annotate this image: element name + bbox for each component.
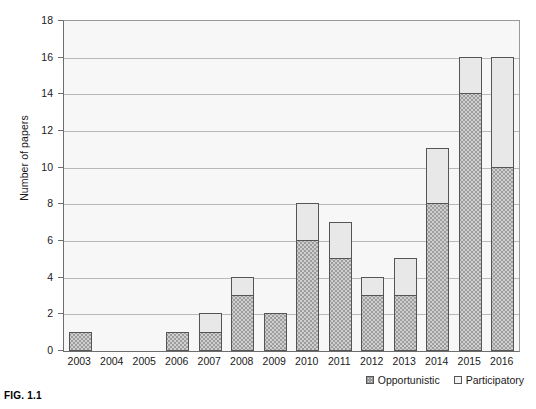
bar-segment-participatory[interactable] xyxy=(199,313,222,332)
bar-column[interactable] xyxy=(459,21,482,351)
y-axis-tick-label: 4 xyxy=(19,272,53,282)
bar-segment-participatory[interactable] xyxy=(329,222,352,260)
y-axis-tick-label: 6 xyxy=(19,235,53,245)
bar-column[interactable] xyxy=(329,21,352,351)
y-axis-tick-label: 10 xyxy=(19,162,53,172)
bar-segment-opportunistic[interactable] xyxy=(491,167,514,351)
y-axis-tick-label: 14 xyxy=(19,88,53,98)
bar-column[interactable] xyxy=(491,21,514,351)
legend-swatch-icon xyxy=(366,376,374,384)
bar-segment-opportunistic[interactable] xyxy=(166,332,189,351)
x-axis-tick-label: 2007 xyxy=(193,355,226,367)
bar-segment-opportunistic[interactable] xyxy=(231,295,254,351)
y-axis-tick-label: 12 xyxy=(19,125,53,135)
figure-container: Number of papers 024681012141618 2003200… xyxy=(0,0,536,409)
figure-caption: FIG. 1.1 xyxy=(4,390,42,401)
bar-segment-opportunistic[interactable] xyxy=(199,332,222,351)
bar-column[interactable] xyxy=(199,21,222,351)
chart-legend: OpportunisticParticipatory xyxy=(0,374,524,386)
bar-segment-opportunistic[interactable] xyxy=(459,93,482,351)
bar-segment-participatory[interactable] xyxy=(361,277,384,296)
legend-item-opportunistic[interactable]: Opportunistic xyxy=(366,374,440,386)
y-axis-tick-label: 2 xyxy=(19,308,53,318)
bar-column[interactable] xyxy=(166,21,189,351)
x-axis-tick-label: 2012 xyxy=(356,355,389,367)
bar-segment-opportunistic[interactable] xyxy=(329,258,352,351)
legend-swatch-icon xyxy=(454,376,462,384)
bar-segment-participatory[interactable] xyxy=(491,57,514,168)
bar-segment-opportunistic[interactable] xyxy=(296,240,319,351)
bar-column[interactable] xyxy=(296,21,319,351)
x-axis-tick-label: 2013 xyxy=(388,355,421,367)
bar-segment-participatory[interactable] xyxy=(459,57,482,95)
bars-layer xyxy=(64,21,519,351)
y-axis-tick-label: 16 xyxy=(19,52,53,62)
y-axis-tick-container: 024681012141618 xyxy=(0,0,63,409)
bar-column[interactable] xyxy=(264,21,287,351)
x-axis-tick-label: 2015 xyxy=(453,355,486,367)
x-axis-tick-label: 2004 xyxy=(96,355,129,367)
y-axis-tick-label: 8 xyxy=(19,198,53,208)
x-axis-tick-label: 2005 xyxy=(128,355,161,367)
x-axis-tick-label: 2006 xyxy=(161,355,194,367)
y-axis-tick-label: 0 xyxy=(19,345,53,355)
bar-column[interactable] xyxy=(69,21,92,351)
bar-column[interactable] xyxy=(231,21,254,351)
bar-column[interactable] xyxy=(101,21,124,351)
bar-column[interactable] xyxy=(394,21,417,351)
bar-column[interactable] xyxy=(361,21,384,351)
bar-segment-participatory[interactable] xyxy=(394,258,417,296)
bar-segment-participatory[interactable] xyxy=(296,203,319,241)
bar-segment-participatory[interactable] xyxy=(426,148,449,204)
bar-segment-participatory[interactable] xyxy=(231,277,254,296)
x-axis-tick-label: 2009 xyxy=(258,355,291,367)
bar-segment-opportunistic[interactable] xyxy=(394,295,417,351)
legend-label: Opportunistic xyxy=(378,374,440,386)
bar-column[interactable] xyxy=(134,21,157,351)
plot-area xyxy=(63,20,520,352)
legend-label: Participatory xyxy=(466,374,524,386)
x-axis-tick-label: 2008 xyxy=(226,355,259,367)
x-axis-tick-label: 2016 xyxy=(486,355,519,367)
y-axis-tick-label: 18 xyxy=(19,15,53,25)
x-axis-tick-label: 2003 xyxy=(63,355,96,367)
bar-column[interactable] xyxy=(426,21,449,351)
legend-item-participatory[interactable]: Participatory xyxy=(454,374,524,386)
bar-segment-opportunistic[interactable] xyxy=(69,332,92,351)
bar-segment-opportunistic[interactable] xyxy=(426,203,449,351)
x-axis-tick-label: 2010 xyxy=(291,355,324,367)
x-axis-tick-label: 2014 xyxy=(421,355,454,367)
x-axis-tick-label: 2011 xyxy=(323,355,356,367)
bar-segment-opportunistic[interactable] xyxy=(361,295,384,351)
bar-segment-opportunistic[interactable] xyxy=(264,313,287,351)
